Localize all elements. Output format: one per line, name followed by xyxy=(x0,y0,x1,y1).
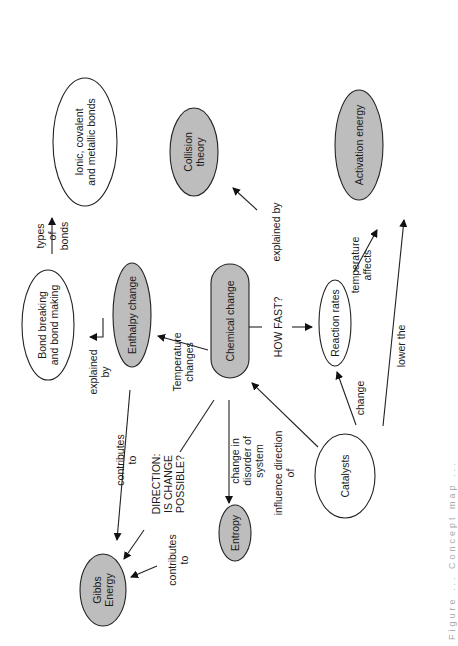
edge-reaction-to-collision xyxy=(233,188,257,210)
node-gibbs-energy: GibbsEnergy xyxy=(80,554,126,626)
node-label: Activation energy xyxy=(353,104,365,185)
node-label: Ionic, covalentand metallic bonds xyxy=(73,98,97,186)
node-label-line: Collision xyxy=(182,132,194,172)
edge-label-change: change xyxy=(354,381,366,416)
edge-label-direction-is-change-possible-line: IS CHANGE xyxy=(162,455,174,513)
connector-line xyxy=(383,220,404,426)
node-label-line: Catalysts xyxy=(339,454,351,497)
edge-label-how-fast: HOW FAST? xyxy=(272,297,284,358)
edge-catalysts-to-activation xyxy=(383,220,404,426)
edge-label-lower-the-line: lower the xyxy=(395,325,407,368)
edge-label-influence-direction-of-line: of xyxy=(284,469,296,478)
connector-line xyxy=(131,566,157,577)
node-label: Enthalpy change xyxy=(126,276,138,354)
edge-label-direction-is-change-possible-line: POSSIBLE? xyxy=(174,455,186,513)
edge-label-explained-by: explainedby xyxy=(87,349,111,394)
edge-label-how-fast-line: HOW FAST? xyxy=(272,297,284,358)
edge-enthalpy-to-bond xyxy=(90,318,103,337)
node-label-line: Activation energy xyxy=(353,104,365,185)
node-label-line: Enthalpy change xyxy=(126,276,138,354)
node-chemical-change: Chemical change xyxy=(211,264,249,378)
edge-label-direction-is-change-possible-line: DIRECTION: xyxy=(150,454,162,515)
node-ionic-covalent-and-metallic-bonds: Ionic, covalentand metallic bonds xyxy=(53,78,117,206)
node-label: Chemical change xyxy=(224,280,236,361)
node-label: Bond breakingand bond making xyxy=(36,285,60,366)
edge-label-explained-by-line: explained by xyxy=(270,202,282,262)
node-entropy: Entropy xyxy=(219,505,251,561)
edge-label-change-in-disorder-of-system: change indisorder ofsystem xyxy=(229,436,265,486)
edge-entropy-to-gibbs xyxy=(131,566,157,577)
node-label: Catalysts xyxy=(339,454,351,497)
edge-catalysts-to-chemical xyxy=(252,383,318,447)
connector-line xyxy=(233,188,257,210)
edge-label-influence-direction-of: influence directionof xyxy=(272,431,296,516)
edge-label-explained-by-line: by xyxy=(99,366,111,378)
node-label: Reaction rates xyxy=(329,289,341,357)
connector-line xyxy=(180,400,214,452)
node-catalysts: Catalysts xyxy=(315,434,375,518)
connector-line xyxy=(90,318,103,337)
node-reaction-rates: Reaction rates xyxy=(319,280,351,366)
node-label: Collisiontheory xyxy=(182,132,206,172)
node-label-line: Energy xyxy=(103,573,115,607)
edge-label-direction-is-change-possible: DIRECTION:IS CHANGEPOSSIBLE? xyxy=(150,454,186,515)
node-label-line: and metallic bonds xyxy=(85,98,97,186)
edge-label-change-in-disorder-of-system-line: system xyxy=(253,444,265,478)
edge-label-types-of-bonds-line: types xyxy=(34,223,46,248)
node-bond-breaking-and-bond-making: Bond breakingand bond making xyxy=(22,270,74,380)
edge-label-lower-the: lower the xyxy=(395,325,407,368)
figure-caption: Figure ... Concept map ... xyxy=(447,460,457,640)
edge-label-contributes-to-line: to xyxy=(126,455,138,464)
caption: Figure ... Concept map ... xyxy=(447,460,457,640)
edge-label-change-line: change xyxy=(354,381,366,416)
connector-line xyxy=(252,383,318,447)
node-label-line: Ionic, covalent xyxy=(73,108,85,175)
edge-label-temperature-affects-line: temperature xyxy=(349,237,361,294)
edge-label-contributes-to-line: to xyxy=(178,555,190,564)
node-label-line: theory xyxy=(194,137,206,167)
edge-label-change-in-disorder-of-system-line: disorder of xyxy=(241,436,253,486)
nodes-layer: Ionic, covalentand metallic bondsCollisi… xyxy=(22,78,383,626)
node-enthalpy-change: Enthalpy change xyxy=(113,263,151,367)
edge-label-explained-by-line: explained xyxy=(87,349,99,394)
node-label-line: Entropy xyxy=(229,514,241,551)
edge-label-explained-by: explained by xyxy=(270,202,282,262)
edge-label-types-of-bonds-line: bonds xyxy=(58,222,70,251)
edge-label-influence-direction-of-line: influence direction xyxy=(272,431,284,516)
node-label: Entropy xyxy=(229,514,241,551)
edge-label-temperature-changes-line: changes xyxy=(183,342,195,382)
node-label-line: Reaction rates xyxy=(329,289,341,357)
edge-label-types-of-bonds-line: of xyxy=(46,232,58,241)
node-label-line: and bond making xyxy=(48,285,60,366)
edge-label-temperature-changes-line: Temperature xyxy=(171,332,183,391)
node-label-line: Bond breaking xyxy=(36,291,48,359)
edge-label-change-in-disorder-of-system-line: change in xyxy=(229,438,241,484)
node-label-line: Gibbs xyxy=(91,576,103,603)
edge-label-temperature-affects-line: affects xyxy=(361,250,373,281)
node-collision-theory: Collisiontheory xyxy=(170,108,218,196)
node-label-line: Chemical change xyxy=(224,280,236,361)
edge-label-contributes-to-line: contributes xyxy=(114,434,126,485)
node-label: GibbsEnergy xyxy=(91,573,115,607)
edge-label-contributes-to-line: contributes xyxy=(166,534,178,585)
edge-label-temperature-changes: Temperaturechanges xyxy=(171,332,195,391)
connector-line xyxy=(124,530,144,559)
node-activation-energy: Activation energy xyxy=(335,90,383,200)
edge-label-contributes-to: contributesto xyxy=(166,534,190,585)
concept-map-canvas: Ionic, covalentand metallic bondsCollisi… xyxy=(0,0,458,646)
